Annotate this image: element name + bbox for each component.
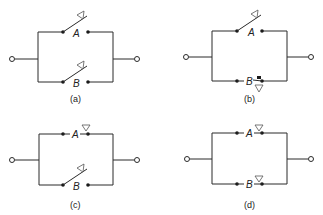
- switch-b-label: B: [246, 179, 253, 190]
- caption-b: (b): [244, 94, 255, 104]
- caption-d: (d): [244, 200, 255, 210]
- actuator-icon: [82, 125, 90, 131]
- actuator-icon: [77, 61, 84, 69]
- input-terminal: [10, 57, 15, 62]
- input-terminal: [10, 158, 15, 163]
- switch-a-label: A: [72, 28, 80, 39]
- caption-a: (a): [70, 94, 81, 104]
- output-terminal: [135, 158, 140, 163]
- input-terminal: [185, 157, 190, 162]
- actuator-icon: [77, 11, 84, 19]
- actuator-icon: [255, 176, 263, 182]
- switch-a-label: A: [245, 128, 253, 139]
- caption-c: (c): [70, 200, 81, 210]
- actuator-icon: [77, 164, 84, 172]
- switch-a-label: A: [247, 27, 255, 38]
- output-terminal: [135, 57, 140, 62]
- parallel-switch-diagrams: A B (a) A B (b): [0, 0, 323, 215]
- actuator-icon: [255, 85, 263, 92]
- output-terminal: [309, 157, 314, 162]
- panel-d: A B (d): [185, 125, 314, 210]
- output-terminal: [309, 55, 314, 60]
- panel-a: A B (a): [10, 11, 140, 104]
- switch-b-label: B: [73, 181, 80, 192]
- switch-a-label: A: [71, 129, 79, 140]
- actuator-icon: [251, 10, 258, 18]
- switch-b-label: B: [73, 78, 80, 89]
- switch-b-label: B: [246, 76, 253, 87]
- input-terminal: [184, 55, 189, 60]
- panel-b: A B (b): [184, 10, 314, 104]
- panel-c: A B (c): [10, 125, 140, 210]
- actuator-icon: [255, 125, 263, 131]
